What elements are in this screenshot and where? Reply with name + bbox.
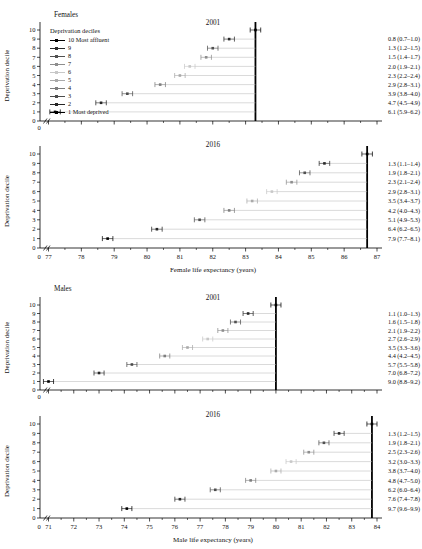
x-tick-label: 84 [374,523,381,530]
y-axis-label: Deprivation decile [3,322,11,374]
data-point [205,56,208,59]
gap-annotation: 6.1 (5.9–6.2) [388,108,420,116]
legend-item-label: 7 [68,61,71,67]
x-axis-label: Female life expectancy (years) [170,266,257,274]
y-axis-label: Deprivation decile [3,50,11,102]
y-tick-label: 10 [29,420,36,427]
data-point [366,153,369,156]
x-tick-label: 77 [45,253,52,260]
data-point [214,489,217,492]
x-tick-label: 78 [78,253,85,260]
gap-annotation: 6.2 (6.0–6.4) [388,486,420,494]
y-tick-label: 2 [32,99,35,106]
legend-item-1: 1 Most deprived [50,108,109,116]
legend-marker-icon [50,64,65,65]
data-point [131,363,134,366]
gap-annotation: 1.3 (1.2–1.5) [388,44,420,52]
panel-group-label: Females [54,11,78,19]
x-tick-label: 81 [298,523,305,530]
legend-item-6: 6 [50,68,109,76]
y-tick-label: 0 [32,386,35,393]
x-tick-label: 71 [45,523,52,530]
figure: Females2001Deprivation decile01234567891… [0,0,422,549]
y-tick-label: 2 [32,369,35,376]
data-point [338,432,341,435]
x-zero-label: 0 [37,523,40,530]
data-point [188,65,191,68]
y-tick-label: 9 [32,310,35,317]
x-tick-label: 81 [177,253,184,260]
panel-group-label: Males [54,285,72,293]
legend-item-label: 9 [68,45,71,51]
legend-item-label: 3 [68,93,71,99]
x-tick-label: 79 [111,253,118,260]
legend-title: Deprivation deciles [50,27,109,34]
legend-item-label: 4 [68,85,71,91]
y-tick-label: 7 [32,448,36,455]
gap-annotation: 1.1 (1.0–1.3) [388,310,420,318]
data-point [307,451,310,454]
data-point [47,380,50,383]
y-tick-label: 9 [32,35,35,42]
data-point [179,74,182,77]
y-tick-label: 4 [32,477,36,484]
y-tick-label: 10 [29,150,36,157]
y-tick-label: 4 [32,207,36,214]
legend-marker-icon [50,72,65,73]
gap-annotation: 1.3 (1.1–1.4) [388,160,420,168]
data-point [163,355,166,358]
gap-annotation: 7.0 (6.8–7.2) [388,369,420,377]
data-point [271,190,274,193]
y-tick-label: 1 [32,235,35,242]
y-tick-label: 8 [32,44,35,51]
data-point [275,304,278,307]
legend-item-9: 9 [50,44,109,52]
gap-annotation: 1.6 (1.5–1.8) [388,318,420,326]
gap-annotation: 3.2 (3.0–3.3) [388,458,420,466]
data-point [251,200,254,203]
y-tick-label: 6 [32,335,36,342]
y-tick-label: 1 [32,505,35,512]
legend-marker-icon [50,56,65,57]
chart-panel-males-2001: Males2001Deprivation decile0123456789100… [0,278,422,405]
legend-item-label: 1 Most deprived [68,109,109,115]
y-tick-label: 7 [32,178,36,185]
x-tick-label: 73 [96,523,103,530]
y-axis-label: Deprivation decile [3,445,11,497]
y-tick-label: 4 [32,81,36,88]
gap-annotation: 3.9 (3.8–4.0) [388,90,420,98]
legend-item-label: 10 Most affluent [68,37,109,43]
legend-marker-icon [50,48,65,49]
y-tick-label: 6 [32,458,36,465]
x-tick-label: 82 [210,253,217,260]
legend-marker-icon [50,40,65,41]
legend-item-label: 8 [68,53,71,59]
y-tick-label: 7 [32,327,36,334]
gap-annotation: 1.3 (1.2–1.5) [388,430,420,438]
y-tick-label: 4 [32,352,36,359]
x-tick-label: 82 [323,523,330,530]
legend: Deprivation deciles 10 Most affluent 9 8… [50,27,109,116]
data-point [126,507,129,510]
y-tick-label: 3 [32,486,35,493]
y-tick-label: 9 [32,430,35,437]
gap-annotation: 7.9 (7.7–8.1) [388,235,420,243]
gap-annotation: 7.6 (7.4–7.8) [388,495,420,503]
panel-title: 2016 [206,411,221,419]
x-tick-label: 84 [275,253,282,260]
legend-item-label: 2 [68,101,71,107]
y-tick-label: 3 [32,90,35,97]
x-tick-label: 86 [341,253,348,260]
chart-panel-males-2016: 2016Deprivation decile012345678910071727… [0,405,422,549]
x-tick-label: 85 [308,253,315,260]
gap-annotation: 2.1 (1.9–2.2) [388,327,420,335]
legend-marker-icon [50,88,65,89]
y-tick-label: 3 [32,361,35,368]
y-tick-label: 0 [32,117,35,124]
data-point [234,321,237,324]
x-tick-label: 87 [374,253,381,260]
data-point [186,346,189,349]
x-zero-label: 0 [37,124,40,131]
data-point [249,479,252,482]
data-point [126,92,129,95]
